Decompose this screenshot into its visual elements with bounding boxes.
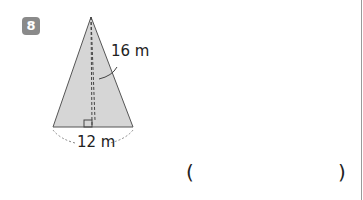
answer-close-paren: ) — [338, 160, 346, 184]
page-edge-divider — [361, 0, 363, 200]
slant-height-label: 16 m — [111, 42, 149, 60]
base-length-label: 12 m — [77, 133, 115, 151]
answer-open-paren: ( — [186, 160, 194, 184]
triangle-figure — [0, 0, 363, 200]
